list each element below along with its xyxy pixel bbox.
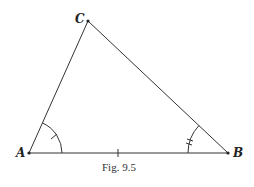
vertex-c-point xyxy=(86,19,89,22)
vertex-a-point xyxy=(27,151,30,154)
angle-b-arc xyxy=(188,126,199,154)
vertex-b-label: B xyxy=(233,147,243,159)
vertex-a-label: A xyxy=(16,147,25,159)
triangle-diagram xyxy=(0,0,254,187)
vertex-c-label: C xyxy=(75,13,85,25)
side-bc xyxy=(88,21,228,153)
figure-caption: Fig. 9.5 xyxy=(102,162,136,173)
vertex-b-point xyxy=(226,151,229,154)
angle-a-tick xyxy=(51,134,57,139)
side-ac xyxy=(29,21,88,153)
